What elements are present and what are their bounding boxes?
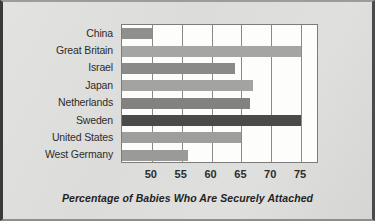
bar-japan [122,80,253,91]
bar-united-states [122,132,241,143]
bar-series [122,25,317,162]
category-label-israel: Israel [9,61,113,73]
category-label-china: China [9,27,113,39]
bar-great-britain [122,46,301,57]
category-label-sweden: Sweden [9,114,113,126]
x-tick-label-60: 60 [198,168,224,180]
x-axis-tick-labels: 505560657075 [121,168,318,184]
bar-israel [122,63,235,74]
category-label-west-germany: West Germany [9,148,113,160]
plot-area [121,24,318,163]
bar-row [122,60,319,77]
chart-figure: ChinaGreat BritainIsraelJapanNetherlands… [0,0,375,221]
bar-row [122,77,319,94]
x-axis-title: Percentage of Babies Who Are Securely At… [3,192,372,204]
y-axis-category-labels: ChinaGreat BritainIsraelJapanNetherlands… [9,24,117,163]
bar-china [122,28,152,39]
x-tick-label-65: 65 [227,168,253,180]
bar-row [122,42,319,59]
bar-row [122,129,319,146]
bar-row [122,112,319,129]
category-label-japan: Japan [9,79,113,91]
x-tick-label-55: 55 [168,168,194,180]
x-tick-label-75: 75 [287,168,313,180]
x-tick-label-70: 70 [257,168,283,180]
bar-row [122,147,319,164]
category-label-netherlands: Netherlands [9,96,113,108]
x-tick-label-50: 50 [138,168,164,180]
category-label-great-britain: Great Britain [9,44,113,56]
bar-row [122,25,319,42]
category-label-united-states: United States [9,131,113,143]
bar-netherlands [122,98,250,109]
bar-row [122,95,319,112]
bar-west-germany [122,150,188,161]
bar-sweden [122,115,301,126]
